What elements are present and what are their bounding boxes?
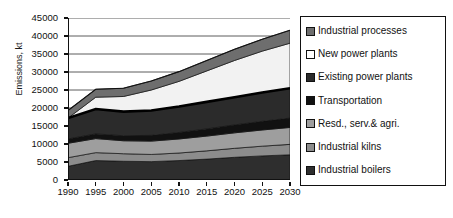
x-tick-mark <box>289 182 290 186</box>
y-tick-label: 35000 <box>32 49 58 59</box>
x-tick-label: 2015 <box>196 186 217 197</box>
y-tick-label: 45000 <box>32 13 58 23</box>
x-tick-mark <box>95 182 96 186</box>
legend-swatch-icon <box>306 27 315 36</box>
legend-swatch-icon <box>306 73 315 82</box>
x-tick-label: 1995 <box>85 186 106 197</box>
x-tick-mark <box>206 182 207 186</box>
legend-item-label: Industrial processes <box>318 26 407 36</box>
legend-item-label: Industrial boilers <box>318 165 391 175</box>
y-axis-tick-labels: 0500010000150002000025000300003500040000… <box>0 0 68 200</box>
legend-item[interactable]: Existing power plants <box>306 69 442 85</box>
x-tick-mark <box>178 182 179 186</box>
legend-swatch-icon <box>306 143 315 152</box>
legend-item-label: Transportation <box>318 96 382 106</box>
legend-item-label: Resd., serv.& agri. <box>318 119 400 129</box>
legend-item-label: Industrial kilns <box>318 142 381 152</box>
x-tick-mark <box>123 182 124 186</box>
x-tick-mark <box>67 182 68 186</box>
x-tick-label: 2020 <box>224 186 245 197</box>
legend-item[interactable]: Industrial boilers <box>306 162 442 178</box>
legend-item-label: Existing power plants <box>318 72 413 82</box>
legend-item[interactable]: Resd., serv.& agri. <box>306 116 442 132</box>
legend-item[interactable]: Industrial processes <box>306 23 442 39</box>
y-tick-label: 10000 <box>32 139 58 149</box>
x-tick-mark <box>151 182 152 186</box>
legend-swatch-icon <box>306 50 315 59</box>
legend-swatch-icon <box>306 96 315 105</box>
x-tick-mark <box>262 182 263 186</box>
plot-frame <box>68 18 290 180</box>
plot-area <box>68 18 290 180</box>
legend-item-label: New power plants <box>318 49 397 59</box>
y-tick-label: 25000 <box>32 85 58 95</box>
x-tick-label: 2005 <box>141 186 162 197</box>
y-tick-label: 5000 <box>37 157 58 167</box>
y-tick-label: 40000 <box>32 31 58 41</box>
x-tick-label: 2025 <box>252 186 273 197</box>
chart-legend: Industrial processesNew power plantsExis… <box>300 16 446 186</box>
y-tick-label: 20000 <box>32 103 58 113</box>
y-tick-label: 30000 <box>32 67 58 77</box>
x-tick-label: 1990 <box>57 186 78 197</box>
legend-item[interactable]: New power plants <box>306 46 442 62</box>
legend-swatch-icon <box>306 166 315 175</box>
x-tick-label: 2010 <box>168 186 189 197</box>
x-tick-mark <box>234 182 235 186</box>
legend-swatch-icon <box>306 119 315 128</box>
x-tick-label: 2030 <box>279 186 300 197</box>
chart-container: Emissions, kt 05000100001500020000250003… <box>0 0 453 218</box>
x-tick-label: 2000 <box>113 186 134 197</box>
y-tick-label: 15000 <box>32 121 58 131</box>
x-axis-tick-labels: 199019952000200520102015202020252030 <box>0 182 300 206</box>
legend-item[interactable]: Industrial kilns <box>306 139 442 155</box>
legend-item[interactable]: Transportation <box>306 93 442 109</box>
